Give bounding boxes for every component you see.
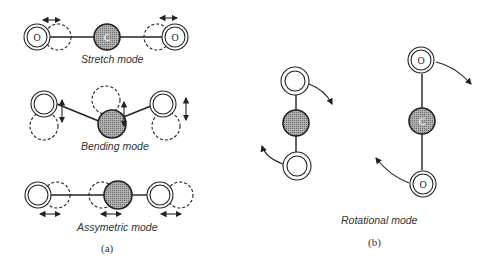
caption-b: (b) bbox=[368, 236, 381, 248]
carbon-label: C bbox=[104, 32, 111, 43]
oxygen-label: O bbox=[417, 55, 424, 66]
oxygen-label: O bbox=[33, 32, 40, 43]
bending-mode-label: Bending mode bbox=[81, 140, 149, 152]
bending-mode bbox=[30, 86, 186, 140]
carbon-label: C bbox=[419, 116, 426, 127]
asymmetric-mode bbox=[25, 181, 193, 214]
rotational-mode-label: Rotational mode bbox=[341, 214, 417, 226]
oxygen-label: O bbox=[171, 32, 178, 43]
oxygen-label: O bbox=[419, 179, 426, 190]
caption-a: (a) bbox=[101, 242, 113, 254]
stretch-mode-label: Stretch mode bbox=[81, 53, 143, 65]
rotational-unlabeled bbox=[262, 67, 332, 180]
asymmetric-mode-label: Assymetric mode bbox=[77, 221, 158, 233]
co2-vibration-diagram: O C O O C O bbox=[0, 0, 493, 260]
